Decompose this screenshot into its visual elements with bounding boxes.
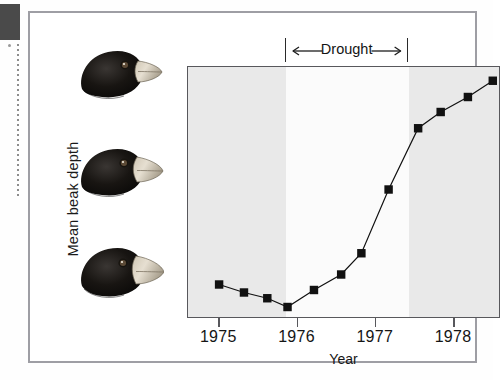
data-series-line: [188, 67, 499, 317]
x-axis-title: Year: [187, 351, 500, 367]
x-axis-tick-label: 1976: [278, 328, 315, 346]
data-point-marker: [263, 294, 271, 302]
page-margin-dot: [8, 44, 11, 47]
x-axis-tick: [297, 318, 299, 327]
data-point-marker: [283, 303, 291, 311]
page-margin-dotted-rule: [17, 44, 19, 196]
finch-head-illustration-middle: [72, 139, 164, 207]
drought-annotation: Drought: [285, 38, 409, 62]
drought-label: Drought: [285, 41, 409, 57]
y-axis-title: Mean beak depth: [65, 119, 81, 279]
plot-frame: [187, 66, 500, 318]
data-point-marker: [384, 185, 392, 193]
data-point-marker: [357, 249, 365, 257]
data-point-marker: [464, 93, 472, 101]
data-point-marker: [489, 77, 497, 85]
x-axis-tick: [218, 318, 220, 327]
x-axis-tick-label: 1977: [356, 328, 393, 346]
finch-head-illustration-bottom: [72, 239, 164, 307]
data-point-marker: [337, 270, 345, 278]
data-point-marker: [436, 108, 444, 116]
data-point-marker: [215, 280, 223, 288]
data-point-marker: [310, 286, 318, 294]
x-axis-tick-label: 1978: [435, 328, 472, 346]
figure-card: Mean beak depth Drought 1975197619771978…: [28, 11, 477, 363]
x-axis-tick: [453, 318, 455, 327]
x-axis-tick: [375, 318, 377, 327]
plot-area: [187, 66, 500, 318]
x-axis-tick-label: 1975: [200, 328, 237, 346]
series-polyline: [219, 81, 493, 307]
finch-head-illustration-top: [72, 41, 164, 109]
page-margin-block: [0, 4, 20, 40]
data-point-marker: [414, 124, 422, 132]
data-point-marker: [240, 288, 248, 296]
